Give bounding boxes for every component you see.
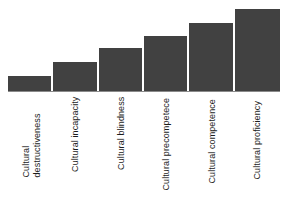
- x-tick-label-line: Cultural blindness: [116, 97, 127, 170]
- x-axis-tick-labels: Cultural destructiveness Cultural incapa…: [8, 93, 280, 208]
- bar-cultural-competence[interactable]: [189, 23, 232, 91]
- bar-cultural-precompetece[interactable]: [144, 36, 187, 91]
- x-axis-line: [8, 91, 280, 92]
- bar-cultural-destructiveness[interactable]: [8, 76, 51, 91]
- x-tick-label-line: Cultural: [20, 113, 31, 177]
- bar-cultural-incapacity[interactable]: [53, 62, 96, 91]
- bar-chart: Cultural destructiveness Cultural incapa…: [0, 0, 286, 210]
- plot-area: [8, 4, 280, 91]
- x-tick-label-cultural-precompetece: Cultural precompetece: [144, 93, 189, 205]
- x-tick-label-cultural-incapacity: Cultural incapacity: [53, 93, 98, 205]
- bar-cultural-blindness[interactable]: [99, 48, 142, 91]
- x-tick-label-line: Cultural incapacity: [71, 97, 82, 172]
- x-tick-label-cultural-proficiency: Cultural proficiency: [235, 93, 280, 205]
- x-tick-label-line: Cultural competence: [207, 99, 218, 183]
- x-tick-label-line: Cultural precompetece: [161, 98, 172, 191]
- x-tick-label-line: Cultural proficiency: [252, 101, 263, 180]
- x-tick-label-cultural-competence: Cultural competence: [189, 93, 234, 205]
- x-tick-label-cultural-blindness: Cultural blindness: [99, 93, 144, 205]
- x-tick-label-line: destructiveness: [31, 113, 42, 177]
- bar-cultural-proficiency[interactable]: [235, 9, 280, 91]
- x-tick-label-cultural-destructiveness: Cultural destructiveness: [8, 93, 53, 205]
